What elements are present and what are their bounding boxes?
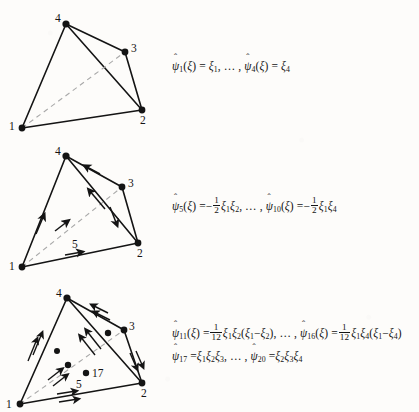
paren-minus: −: [254, 327, 261, 339]
fraction-one-twelfth-2: 112: [339, 323, 350, 343]
psi-hat-symbol-2: ˆψ: [266, 200, 273, 212]
equals-sign-2: =: [331, 327, 338, 339]
hat-accent: ˆ: [268, 194, 271, 203]
psi-hat-symbol: ˆψ: [172, 350, 179, 362]
equals-sign: =: [199, 200, 206, 212]
formula-column: ˆψ1(ξ) = ξ1, … , ˆψ4(ξ) = ξ4 ˆψ5(ξ) =−12…: [0, 0, 419, 412]
rparen: ): [324, 327, 328, 339]
fraction-numerator: 1: [213, 196, 220, 205]
psi-hat-symbol: ˆψ: [172, 200, 179, 212]
hat-accent: ˆ: [302, 321, 305, 330]
formula-row-4: ˆψ17 =ξ1ξ2ξ3, … , ˆψ20 =ξ2ξ3ξ4: [172, 350, 302, 364]
fraction-numerator: 1: [339, 323, 350, 332]
fraction-denominator: 2: [213, 205, 220, 215]
hat-accent: ˆ: [246, 54, 249, 63]
fraction-one-half-2: 12: [311, 196, 318, 216]
psi-hat-symbol-2: ˆψ: [250, 350, 257, 362]
formula-row-2: ˆψ5(ξ) =−12ξ1ξ2, … , ˆψ10(ξ) =−12ξ1ξ4: [172, 196, 337, 216]
equals-sign-2: =: [271, 60, 278, 72]
psi-hat-symbol-2: ˆψ: [300, 327, 307, 339]
fraction-one-twelfth: 112: [210, 323, 221, 343]
rparen: ): [192, 60, 196, 72]
fraction-one-half: 12: [213, 196, 220, 216]
psi-index: 17: [179, 355, 187, 364]
xi-term-index-6: 4: [298, 355, 302, 364]
hat-accent: ˆ: [174, 321, 177, 330]
rparen: ): [196, 327, 200, 339]
psi-index-2: 10: [273, 205, 281, 214]
hat-accent: ˆ: [174, 54, 177, 63]
ellipsis: , … ,: [274, 327, 298, 339]
minus-sign-2: −: [303, 200, 310, 212]
fraction-numerator: 1: [311, 196, 318, 205]
minus-sign: −: [206, 200, 213, 212]
fraction-denominator: 12: [339, 332, 350, 342]
rparen: ): [265, 60, 269, 72]
psi-index-2: 20: [258, 355, 266, 364]
hat-accent: ˆ: [174, 344, 177, 353]
fraction-numerator: 1: [210, 323, 221, 332]
xi-term-index-4: 4: [333, 205, 337, 214]
xi-value-index-2: 4: [286, 65, 290, 74]
ellipsis: , … ,: [224, 350, 248, 362]
hat-accent: ˆ: [174, 194, 177, 203]
ellipsis: , … ,: [218, 60, 242, 72]
psi-hat-symbol: ˆψ: [172, 60, 179, 72]
formula-row-1: ˆψ1(ξ) = ξ1, … , ˆψ4(ξ) = ξ4: [172, 60, 290, 74]
fraction-denominator: 12: [210, 332, 221, 342]
rparen: ): [192, 200, 196, 212]
paren-minus-2: −: [382, 327, 389, 339]
psi-hat-symbol-2: ˆψ: [244, 60, 251, 72]
rparen-group-2: ): [398, 327, 402, 339]
formula-row-3: ˆψ11(ξ) =112ξ1ξ2(ξ1−ξ2), … , ˆψ16(ξ) =11…: [172, 323, 402, 343]
equals-sign: =: [190, 350, 197, 362]
psi-index: 11: [179, 332, 187, 341]
fraction-denominator: 2: [311, 205, 318, 215]
figure-page: 1 2 3 4: [0, 0, 419, 412]
ellipsis: , … ,: [239, 200, 263, 212]
hat-accent: ˆ: [252, 344, 255, 353]
psi-hat-symbol: ˆψ: [172, 327, 179, 339]
equals-sign: =: [199, 60, 206, 72]
rparen: ): [290, 200, 294, 212]
equals-sign: =: [203, 327, 210, 339]
